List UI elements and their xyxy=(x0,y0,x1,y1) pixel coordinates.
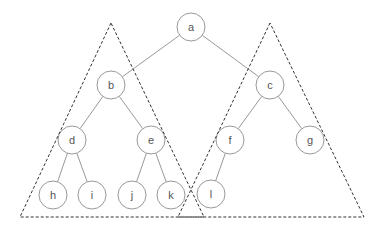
node-label: c xyxy=(267,79,273,91)
edge-a-b xyxy=(122,35,179,77)
node-label: a xyxy=(188,21,195,33)
edge-f-l xyxy=(216,153,226,181)
nodes-layer: abcdefghijkl xyxy=(39,13,324,209)
edges-layer xyxy=(58,35,302,182)
node-label: d xyxy=(69,134,75,146)
tree-diagram: abcdefghijkl xyxy=(0,0,383,229)
tree-diagram-svg: abcdefghijkl xyxy=(0,0,383,229)
node-k: k xyxy=(157,181,185,209)
node-i: i xyxy=(78,181,106,209)
node-label: h xyxy=(50,189,56,201)
edge-e-j xyxy=(137,153,147,182)
node-l: l xyxy=(197,180,225,208)
edge-c-f xyxy=(238,96,262,128)
node-j: j xyxy=(118,181,146,209)
subtree-triangles-layer xyxy=(20,23,364,217)
node-label: e xyxy=(148,134,154,146)
edge-c-g xyxy=(278,96,302,128)
node-a: a xyxy=(177,13,205,41)
node-f: f xyxy=(216,126,244,154)
node-h: h xyxy=(39,181,67,209)
node-label: g xyxy=(307,134,313,146)
edge-d-h xyxy=(58,153,68,182)
node-d: d xyxy=(58,126,86,154)
node-c: c xyxy=(256,71,284,99)
node-g: g xyxy=(296,126,324,154)
node-label: i xyxy=(91,189,93,201)
node-label: k xyxy=(168,189,174,201)
edge-a-c xyxy=(202,35,258,76)
edge-b-e xyxy=(119,96,143,128)
edge-b-d xyxy=(80,96,103,128)
node-b: b xyxy=(97,71,125,99)
edge-e-k xyxy=(156,153,166,182)
node-label: l xyxy=(210,188,212,200)
edge-d-i xyxy=(77,153,87,182)
node-e: e xyxy=(137,126,165,154)
node-label: j xyxy=(130,189,133,201)
node-label: b xyxy=(108,79,114,91)
